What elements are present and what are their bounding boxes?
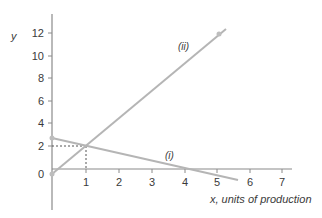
y-tick-label-8: 8 — [38, 72, 44, 84]
x-tick-label-1: 1 — [83, 176, 89, 188]
x-tick-label-4: 4 — [182, 176, 188, 188]
line-ii — [52, 29, 226, 174]
x-axis-label: x, units of production — [209, 193, 312, 205]
x-tick-label-7: 7 — [279, 176, 285, 188]
y-tick-label-12: 12 — [32, 27, 44, 39]
y-tick-label-2: 2 — [38, 140, 44, 152]
origin-label: 0 — [38, 168, 44, 180]
line-ii-end-point — [217, 32, 222, 37]
y-tick-label-6: 6 — [38, 95, 44, 107]
line-i-start-point — [50, 136, 55, 141]
line-ii-label: (ii) — [178, 41, 189, 52]
x-ticks — [86, 169, 282, 173]
x-tick-label-5: 5 — [214, 176, 220, 188]
x-tick-label-6: 6 — [247, 176, 253, 188]
y-tick-label-4: 4 — [38, 117, 44, 129]
x-tick-label-2: 2 — [116, 176, 122, 188]
line-i — [52, 138, 238, 180]
chart-canvas: 12 10 8 6 4 2 0 1 2 3 4 5 6 7 y x, units… — [0, 0, 322, 218]
x-tick-label-3: 3 — [149, 176, 155, 188]
line-i-label: (i) — [165, 150, 174, 161]
line-ii-start-point — [50, 172, 55, 177]
y-axis-label: y — [10, 30, 18, 42]
y-tick-label-10: 10 — [32, 50, 44, 62]
